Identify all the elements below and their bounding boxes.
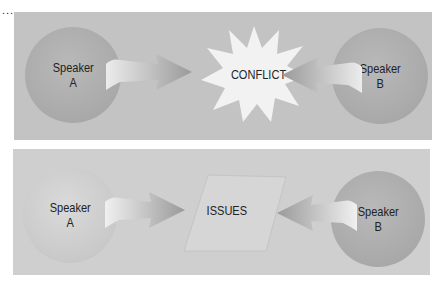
speaker-b-label: Speaker <box>359 61 400 76</box>
arrow-left-icon <box>282 57 362 97</box>
speaker-b-letter: B <box>359 76 400 91</box>
speaker-b-label: Speaker <box>357 204 398 219</box>
arrow-right-icon <box>105 192 187 232</box>
speaker-a-letter: A <box>49 215 90 230</box>
continuation-marker: ... <box>2 6 14 14</box>
issues-panel: ISSUES Speaker A Speaker B <box>13 149 430 275</box>
speaker-a-circle: Speaker A <box>23 167 117 263</box>
issues-label: ISSUES <box>207 203 248 218</box>
arrow-left-icon <box>277 195 357 235</box>
conflict-panel: CONFLICT Speaker A Speaker B <box>14 12 432 140</box>
speaker-b-letter: B <box>357 219 398 234</box>
speaker-a-letter: A <box>52 75 93 90</box>
conflict-label: CONFLICT <box>231 67 286 82</box>
speaker-a-label: Speaker <box>52 60 93 75</box>
speaker-a-label: Speaker <box>49 200 90 215</box>
arrow-right-icon <box>106 54 194 94</box>
